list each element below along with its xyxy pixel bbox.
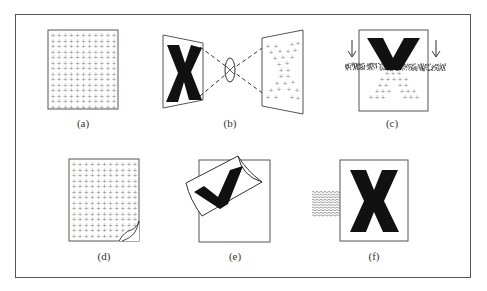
- caption-f: (f): [354, 250, 394, 262]
- panel-f-wave-x: [0, 0, 487, 291]
